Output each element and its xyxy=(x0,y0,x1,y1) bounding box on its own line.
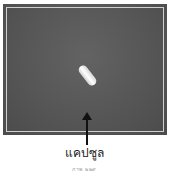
figure-label: แคปซูล xyxy=(0,143,169,162)
arrow-shaft xyxy=(86,118,88,145)
figure-caption: ภาพ ๒๒๙ xyxy=(0,165,169,173)
